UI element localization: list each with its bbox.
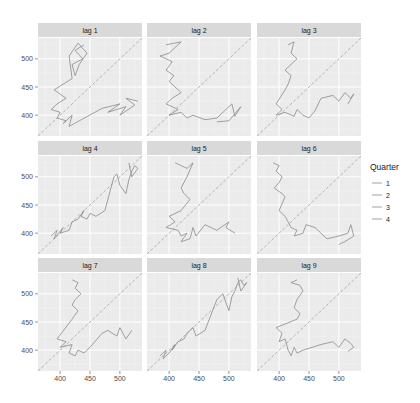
x-tick-label: 450: [193, 375, 205, 382]
x-tick-label: 500: [333, 375, 345, 382]
facet-label: lag 5: [191, 145, 206, 153]
y-tick-label: 450: [21, 202, 33, 209]
facet-panels: lag 1lag 2lag 3lag 4lag 5lag 6lag 7lag 8…: [38, 23, 361, 371]
facet-panel: lag 4: [38, 141, 142, 254]
x-tick-label: 500: [223, 375, 235, 382]
y-tick-label: 450: [21, 84, 33, 91]
x-axis: 400450500400450500400450500: [54, 371, 345, 382]
facet-panel: lag 3: [257, 23, 361, 136]
legend-entry: 3: [386, 204, 390, 211]
x-tick-label: 500: [114, 375, 126, 382]
y-tick-label: 500: [21, 290, 33, 297]
facet-label: lag 1: [82, 27, 97, 35]
facet-panel: lag 7: [38, 258, 142, 371]
facet-panel: lag 5: [147, 141, 251, 254]
x-tick-label: 450: [84, 375, 96, 382]
facet-label: lag 7: [82, 262, 97, 270]
lag-plot-chart: lag 1lag 2lag 3lag 4lag 5lag 6lag 7lag 8…: [0, 0, 420, 403]
y-tick-label: 500: [21, 55, 33, 62]
facet-label: lag 9: [301, 262, 316, 270]
facet-panel: lag 8: [147, 258, 251, 371]
legend: Quarter 1234: [370, 162, 399, 223]
facet-label: lag 2: [191, 27, 206, 35]
y-tick-label: 500: [21, 173, 33, 180]
legend-entry: 4: [386, 216, 390, 223]
x-tick-label: 400: [273, 375, 285, 382]
y-tick-label: 400: [21, 347, 33, 354]
x-tick-label: 400: [163, 375, 175, 382]
facet-panel: lag 1: [38, 23, 142, 136]
facet-label: lag 8: [191, 262, 206, 270]
facet-panel: lag 6: [257, 141, 361, 254]
y-tick-label: 450: [21, 319, 33, 326]
legend-title: Quarter: [370, 162, 399, 172]
y-tick-label: 400: [21, 230, 33, 237]
x-tick-label: 400: [54, 375, 66, 382]
y-tick-label: 400: [21, 112, 33, 119]
facet-label: lag 3: [301, 27, 316, 35]
legend-entry: 1: [386, 180, 390, 187]
facet-label: lag 4: [82, 145, 97, 153]
x-tick-label: 450: [303, 375, 315, 382]
facet-label: lag 6: [301, 145, 316, 153]
facet-panel: lag 2: [147, 23, 251, 136]
y-axis: 400450500400450500400450500: [21, 55, 38, 353]
legend-entry: 2: [386, 192, 390, 199]
facet-panel: lag 9: [257, 258, 361, 371]
